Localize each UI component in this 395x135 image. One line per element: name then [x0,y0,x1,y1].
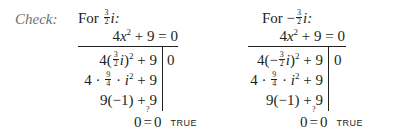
fraction: 32 [113,51,119,68]
substitution-row: 4(−32i)2 + 9 [257,52,323,70]
sign: − [287,10,295,26]
fraction: 32 [279,51,285,68]
row-tail: + 9 [134,52,157,68]
coefficient: 4 [279,28,287,44]
question-mark: ? [144,105,152,114]
multiply-dot: · [278,72,291,88]
final-left: 0 [134,114,142,130]
for-heading: For 32i: [78,10,120,28]
fraction-denominator: 2 [296,18,302,26]
row-prefix: 4( [99,52,112,68]
row-prefix: 4( [257,52,270,68]
equation-rest: + 9 = 0 [131,28,178,44]
horizontal-rule [78,46,178,47]
for-prefix: For [262,10,287,26]
vertical-rule [328,47,329,111]
question-equals: ?= [310,114,318,131]
fraction-denominator: 4 [271,80,277,88]
fraction-denominator: 2 [104,18,110,26]
question-mark: ? [310,105,318,114]
question-equals: ?= [144,114,152,131]
for-heading: For −32i: [262,10,312,28]
substitution-row: 4(32i)2 + 9 [99,52,157,70]
check-block-negative: For −32i: 4x2 + 9 = 0 4(−32i)2 + 9 4 · 9… [185,0,375,135]
check-block-positive: For 32i: 4x2 + 9 = 0 4(32i)2 + 9 4 · 94 … [0,0,190,135]
multiply-dot: · [112,72,125,88]
equals-sign: = [310,114,318,130]
variable: x [287,28,294,44]
variable: x [120,28,127,44]
equation: 4x2 + 9 = 0 [112,28,178,45]
coefficient: 4 [112,28,120,44]
right-hand-side: 0 [167,52,175,69]
row-tail: + 9 [300,52,323,68]
fraction: 32 [104,9,110,26]
sign: − [269,52,277,68]
horizontal-rule [248,46,346,47]
row-prefix: 4 · [84,72,104,88]
for-prefix: For [78,10,103,26]
expand-row: 4 · 94 · i2 + 9 [84,72,157,90]
final-right: 0 [154,114,162,130]
vertical-rule [162,47,163,111]
fraction: 94 [105,71,111,88]
final-result: 0?=0TRUE [300,114,363,131]
equation: 4x2 + 9 = 0 [279,28,345,45]
final-left: 0 [300,114,308,130]
equation-rest: + 9 = 0 [298,28,345,44]
row-tail: + 9 [300,72,323,88]
expand-row: 4 · 94 · i2 + 9 [250,72,323,90]
verdict-label: TRUE [336,118,363,128]
colon: : [307,10,312,26]
fraction-denominator: 2 [113,60,119,68]
right-hand-side: 0 [334,52,342,69]
fraction: 32 [296,9,302,26]
equals-sign: = [144,114,152,130]
row-tail: + 9 [134,72,157,88]
final-right: 0 [320,114,328,130]
row-prefix: 4 · [250,72,270,88]
fraction-denominator: 2 [279,60,285,68]
fraction-denominator: 4 [105,80,111,88]
colon: : [115,10,120,26]
fraction: 94 [271,71,277,88]
